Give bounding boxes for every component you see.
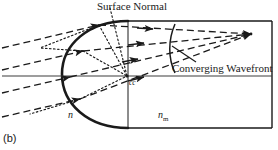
surface-normal-lines [30,8,127,114]
medium-body-outline [128,21,272,128]
focal-point [250,33,253,36]
ray-direction-arrowheads [122,28,153,81]
surface-normal-label: Surface Normal [97,1,167,12]
center-of-curvature-label: cc [129,79,136,87]
converging-wavefront-label: Converging Wavefront [172,63,272,74]
medium-index-label: nm [158,110,168,123]
incoming-rays [2,25,99,117]
figure-drawing [0,0,278,150]
lens-index-label: n [68,110,73,120]
optics-refraction-figure: Surface Normal Converging Wavefront cc n… [0,0,278,150]
medium-index-subscript: m [163,115,168,123]
panel-label: (b) [3,133,16,144]
